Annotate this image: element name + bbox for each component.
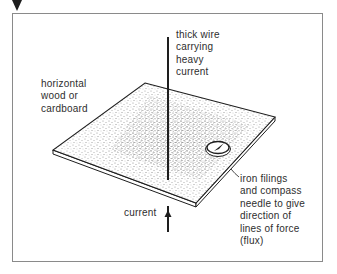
wire-label: thick wire carrying heavy current xyxy=(176,29,220,79)
filings-label: iron filings and compass needle to give … xyxy=(240,173,305,247)
current-arrow-up-icon xyxy=(165,210,172,217)
filings-leader-line xyxy=(231,169,239,177)
compass-icon xyxy=(206,142,231,157)
current-label: current xyxy=(124,207,157,219)
board-label: horizontal wood or cardboard xyxy=(41,78,88,115)
